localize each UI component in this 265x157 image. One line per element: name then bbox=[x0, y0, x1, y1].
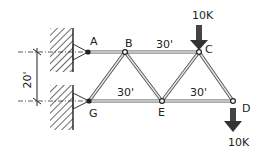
load-D-label: 10K bbox=[228, 136, 250, 149]
truss-members bbox=[88, 52, 233, 101]
label-C: C bbox=[205, 43, 213, 56]
joint-G bbox=[86, 98, 91, 103]
joint-E bbox=[160, 99, 165, 104]
joint-A bbox=[85, 49, 90, 54]
truss-diagram: 20' bbox=[0, 0, 265, 157]
label-E: E bbox=[158, 106, 165, 119]
wall-support bbox=[50, 28, 73, 130]
wall-lower-hatch bbox=[50, 85, 73, 130]
label-G: G bbox=[89, 107, 98, 120]
bottom-span-right-label: 30' bbox=[190, 86, 207, 99]
label-A: A bbox=[90, 35, 98, 48]
joint-C bbox=[197, 50, 202, 55]
load-C-label: 10K bbox=[192, 9, 214, 22]
joint-B bbox=[123, 50, 128, 55]
joint-D bbox=[231, 99, 236, 104]
wall-upper-hatch bbox=[50, 28, 73, 72]
height-dimension: 20' bbox=[21, 48, 41, 106]
label-B: B bbox=[125, 37, 133, 50]
bottom-span-left-label: 30' bbox=[117, 86, 134, 99]
label-D: D bbox=[242, 102, 250, 115]
height-dimension-label: 20' bbox=[21, 71, 34, 88]
top-span-label: 30' bbox=[156, 38, 173, 51]
